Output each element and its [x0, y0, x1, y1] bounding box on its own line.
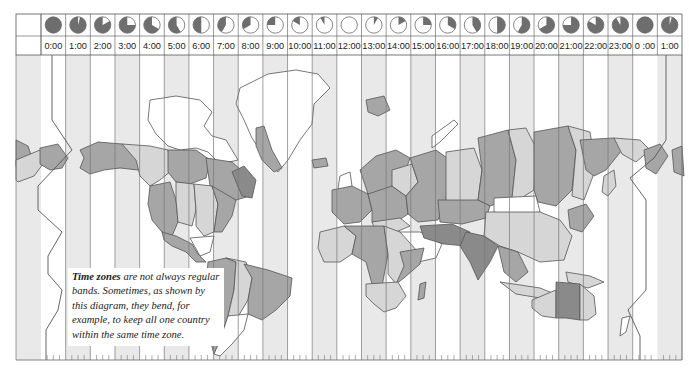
daylight-clock-icon — [588, 17, 604, 33]
hour-label: 11:00 — [313, 41, 335, 51]
hour-label: 19:00 — [510, 41, 533, 51]
daylight-clock-icon — [415, 17, 431, 33]
daylight-clock-icon — [45, 17, 61, 33]
hour-label: 22:00 — [584, 41, 607, 51]
hour-label: 23:00 — [609, 41, 632, 51]
hour-label: 17:00 — [461, 41, 484, 51]
hour-label: 14:00 — [387, 41, 410, 51]
hour-label: 18:00 — [486, 41, 509, 51]
land-australia-central — [556, 282, 580, 320]
hour-label: 1:00 — [661, 41, 679, 51]
daylight-clock-icon — [390, 17, 406, 33]
daylight-clock-icon — [168, 17, 184, 33]
daylight-clock-icon — [612, 17, 628, 33]
land-iceland — [312, 158, 328, 168]
hour-label: 7:00 — [217, 41, 235, 51]
hour-label: 10:00 — [288, 41, 311, 51]
hour-label: 12:00 — [338, 41, 361, 51]
hour-label: 6:00 — [192, 41, 210, 51]
hour-label: 3:00 — [118, 41, 136, 51]
hour-label: 0:00 — [44, 41, 62, 51]
hour-label: 20:00 — [535, 41, 558, 51]
daylight-clock-icon — [514, 17, 530, 33]
daylight-clock-icon — [637, 17, 653, 33]
time-band — [608, 55, 633, 360]
land-russia-omsk — [478, 130, 516, 206]
daylight-clock-icon — [563, 17, 579, 33]
time-band — [657, 55, 682, 360]
hour-label: 2:00 — [94, 41, 112, 51]
caption-bold: Time zones — [72, 271, 121, 282]
band-margin — [16, 55, 41, 360]
hour-label: 16:00 — [436, 41, 459, 51]
daylight-clock-icon — [440, 17, 456, 33]
daylight-clock-icon — [316, 17, 332, 33]
hour-label: 21:00 — [560, 41, 583, 51]
hour-label: 13:00 — [362, 41, 385, 51]
daylight-clock-icon — [242, 17, 258, 33]
time-band — [41, 55, 66, 360]
daylight-clock-icon — [218, 17, 234, 33]
daylight-clock-icon — [144, 17, 160, 33]
hour-label: 4:00 — [143, 41, 161, 51]
hour-label: 15:00 — [412, 41, 435, 51]
daylight-clock-icon — [538, 17, 554, 33]
time-band — [633, 55, 658, 360]
caption: Time zones are not always regular bands.… — [68, 268, 224, 346]
land-us-mountain — [176, 182, 196, 226]
daylight-clock-icon — [661, 17, 677, 33]
hour-label: 0 :00 — [635, 41, 655, 51]
daylight-clock-icon — [292, 17, 308, 33]
hour-label: 5:00 — [168, 41, 186, 51]
daylight-clock-icon — [464, 17, 480, 33]
clock-header: 0:001:002:003:004:005:006:007:008:009:00… — [16, 14, 682, 55]
daylight-clock-icon — [366, 17, 382, 33]
hour-label: 9:00 — [266, 41, 284, 51]
daylight-clock-icon — [119, 17, 135, 33]
daylight-clock-icon — [193, 17, 209, 33]
daylight-clock-icon — [267, 17, 283, 33]
hour-label: 1:00 — [69, 41, 87, 51]
daylight-clock-icon — [70, 17, 86, 33]
hour-label: 8:00 — [242, 41, 260, 51]
daylight-clock-icon — [94, 17, 110, 33]
daylight-clock-icon — [489, 17, 505, 33]
daylight-clock-icon — [341, 17, 357, 33]
